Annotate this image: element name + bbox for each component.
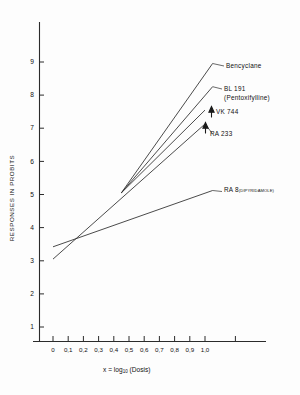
y-tick-label-5: 5 [20, 191, 34, 198]
y-tick-label-3: 3 [20, 257, 34, 264]
series-annotation-ra8-label: RA 8 [224, 186, 239, 193]
y-tick-marks [40, 62, 45, 327]
series-annotation-bencyclane-label: Bencyclane [226, 62, 262, 69]
x-tick-label-0.2: 0,2 [75, 346, 91, 353]
x-tick-label-0.1: 0,1 [60, 346, 76, 353]
y-tick-label-4: 4 [20, 224, 34, 231]
series-annotation-ra233-label: RA 233 [210, 130, 232, 137]
x-tick-label-0: 0 [45, 346, 61, 353]
series-line-bencyclane [121, 64, 212, 193]
x-tick-label-0.7: 0,7 [151, 346, 167, 353]
x-axis-title-prefix: x = log [103, 366, 123, 373]
plot-area [0, 0, 300, 395]
series-annotation-ra8-sublabel: (DIPYRIDAMOLE) [239, 188, 274, 193]
x-tick-label-0.9: 0,9 [182, 346, 198, 353]
series-annotation-vk744-label: VK 744 [216, 108, 238, 115]
x-axis-title-suffix: (Dosis) [130, 366, 151, 373]
series-annotation-ra233: RA 233 [210, 130, 232, 139]
arrow-up-icon-vk744 [209, 107, 214, 118]
leader-line-ra8 [213, 191, 222, 192]
x-tick-label-0.8: 0,8 [167, 346, 183, 353]
arrow-up-icon-ra233 [203, 123, 208, 134]
y-tick-label-1: 1 [20, 323, 34, 330]
x-tick-label-0.6: 0,6 [136, 346, 152, 353]
series-annotation-bl191-label: BL 191 [224, 85, 246, 92]
y-tick-label-9: 9 [20, 58, 34, 65]
series-annotation-bl191: BL 191 (Pentoxifylline) [224, 85, 270, 102]
series-annotation-ra8: RA 8(DIPYRIDAMOLE) [224, 186, 274, 196]
x-tick-label-0.5: 0,5 [121, 346, 137, 353]
x-tick-marks [53, 336, 235, 342]
series-line-bl191 [121, 87, 212, 193]
y-tick-label-8: 8 [20, 91, 34, 98]
leader-line-bencyclane [213, 64, 224, 67]
leader-line-bl191 [213, 87, 222, 89]
x-axis-title-subscript: 10 [123, 369, 128, 374]
x-tick-label-0.4: 0,4 [106, 346, 122, 353]
series-annotation-bencyclane: Bencyclane [226, 62, 262, 71]
series-annotation-bl191-sublabel: (Pentoxifylline) [224, 94, 270, 103]
series-annotation-vk744: VK 744 [216, 108, 238, 117]
x-tick-label-0.3: 0,3 [91, 346, 107, 353]
y-tick-label-7: 7 [20, 124, 34, 131]
series-line-vk744 [121, 110, 205, 193]
x-tick-label-1.0: 1,0 [197, 346, 213, 353]
y-axis-title: RESPONSES IN PROBITS [8, 155, 15, 241]
y-tick-label-6: 6 [20, 158, 34, 165]
x-axis-title: x = log10 (Dosis) [103, 366, 150, 374]
probit-dose-response-chart: RESPONSES IN PROBITS 9 8 7 6 5 4 3 2 1 0… [0, 0, 300, 395]
y-axis-title-wrap: RESPONSES IN PROBITS [4, 118, 18, 278]
y-tick-label-2: 2 [20, 290, 34, 297]
series-line-ra8 [53, 191, 213, 247]
